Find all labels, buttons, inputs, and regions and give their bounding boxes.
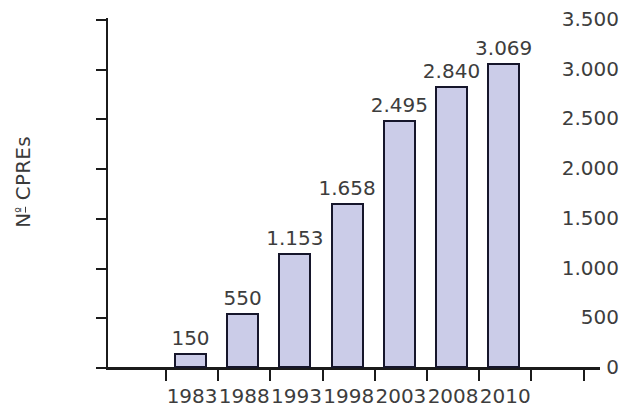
y-axis-tick [96,118,107,120]
y-axis-tick [96,218,107,220]
bar-value-label: 1.153 [258,226,332,250]
y-axis-tick-label: 3.000 [533,57,619,81]
bar [226,313,259,368]
x-axis-tick-label: 1998 [319,384,379,408]
x-axis-tick [322,369,324,381]
ordinal-indicator-icon: º [13,207,27,213]
y-axis-tick-label: 500 [533,305,619,329]
x-axis-tick [583,369,585,381]
y-axis-tick [96,168,107,170]
x-axis-tick-label: 1993 [267,384,327,408]
x-axis-tick [530,369,532,381]
bar-value-label: 550 [206,286,280,310]
y-axis-title-prefix: N [11,213,35,228]
bar-value-label: 1.658 [310,176,384,200]
x-axis-tick [269,369,271,381]
bar-value-label: 150 [154,326,228,350]
x-axis-tick [426,369,428,381]
x-axis-tick-label: 1983 [162,384,222,408]
y-axis-tick-label: 1.500 [533,206,619,230]
x-axis-tick [217,369,219,381]
x-axis-tick-label: 2010 [475,384,535,408]
y-axis-tick [96,317,107,319]
bar [331,203,364,368]
x-axis-tick [165,369,167,381]
y-axis-tick [96,367,107,369]
y-axis-tick-label: 2.000 [533,156,619,180]
bar [487,63,520,368]
x-axis-tick-label: 1988 [214,384,274,408]
bar-chart: Nº CPREs 05001.0001.5002.0002.5003.0003.… [0,0,619,411]
y-axis-tick-label: 1.000 [533,256,619,280]
bar [383,120,416,368]
bar-value-label: 3.069 [467,36,541,60]
x-axis-tick [478,369,480,381]
y-axis-tick-label: 2.500 [533,106,619,130]
x-axis-tick-label: 2003 [371,384,431,408]
y-axis-title: Nº CPREs [11,112,35,252]
y-axis-tick [96,69,107,71]
y-axis-title-suffix: CPREs [11,136,35,207]
y-axis-tick-label: 0 [533,355,619,379]
bar-value-label: 2.495 [362,93,436,117]
y-axis-tick [96,268,107,270]
x-axis-tick [374,369,376,381]
x-axis-tick-label: 2008 [423,384,483,408]
y-axis-tick [96,19,107,21]
bar-value-label: 2.840 [415,59,489,83]
bar [174,353,207,368]
y-axis-tick-label: 3.500 [533,7,619,31]
bar [435,86,468,368]
bar [278,253,311,368]
